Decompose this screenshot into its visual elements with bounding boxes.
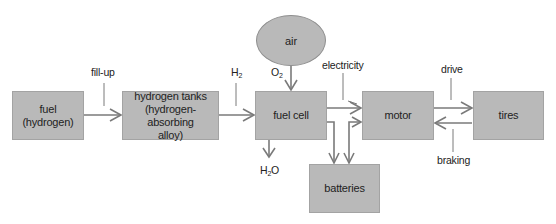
- h2-subscript: 2: [238, 72, 242, 79]
- node-tanks-label-line2: (hydrogen-absorbing: [123, 103, 218, 129]
- node-motor: motor: [362, 91, 434, 140]
- node-fuel-cell-label: fuel cell: [273, 109, 309, 122]
- o2-subscript: 2: [279, 72, 283, 79]
- edge-label-h2: H2: [231, 66, 242, 78]
- node-motor-label: motor: [384, 109, 411, 122]
- node-tanks-label-line1: hydrogen tanks: [123, 90, 218, 103]
- edge-label-fill-up: fill-up: [91, 66, 115, 78]
- o2-base: O: [271, 66, 279, 78]
- edge-label-drive: drive: [441, 63, 463, 75]
- node-fuel-label-line2: (hydrogen): [22, 116, 73, 129]
- node-tires-label: tires: [499, 109, 519, 122]
- node-air-label: air: [285, 35, 297, 47]
- node-air: air: [256, 15, 326, 66]
- edge-label-o2: O2: [271, 66, 283, 78]
- node-fuel-label-line1: fuel: [22, 103, 73, 116]
- edge-label-braking: braking: [437, 154, 470, 166]
- node-batteries: batteries: [309, 164, 380, 213]
- h2o-tail: O: [271, 164, 279, 176]
- node-fuel: fuel (hydrogen): [12, 91, 84, 140]
- node-fuel-cell: fuel cell: [255, 91, 327, 140]
- node-tires: tires: [473, 91, 544, 140]
- node-batteries-label: batteries: [324, 182, 364, 195]
- edge-label-electricity: electricity: [322, 59, 364, 71]
- node-hydrogen-tanks: hydrogen tanks (hydrogen-absorbing alloy…: [122, 91, 219, 140]
- node-tanks-label-line3: alloy): [123, 129, 218, 142]
- edge-label-h2o: H2O: [260, 164, 279, 176]
